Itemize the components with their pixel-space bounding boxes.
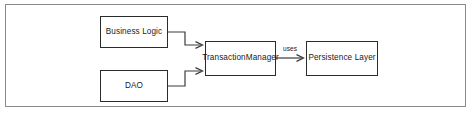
edge-business-logic-to-transaction-manager [168,32,201,45]
node-transaction-manager-label: TransactionManager [202,54,279,62]
node-persistence-layer: Persistence Layer [306,41,378,76]
node-transaction-manager: TransactionManager [205,41,276,76]
node-persistence-layer-label: Persistence Layer [308,54,375,62]
node-business-logic: Business Logic [100,16,168,48]
node-dao-label: DAO [125,82,143,90]
node-business-logic-label: Business Logic [106,28,162,36]
node-dao: DAO [100,70,168,102]
diagram-figure: Business Logic DAO TransactionManager Pe… [0,0,476,118]
edge-dao-to-transaction-manager [168,71,201,86]
edge-label-uses: uses [283,46,297,53]
